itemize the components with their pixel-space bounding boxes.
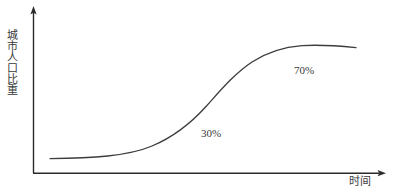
y-axis-label: 城市人口比重	[2, 29, 17, 95]
urbanization-curve-figure: 城市人口比重 时间 30% 70%	[0, 0, 394, 195]
x-axis-label: 时间	[349, 176, 371, 187]
urbanization-curve	[50, 45, 356, 158]
x-axis	[33, 170, 386, 176]
chart-canvas	[0, 0, 394, 195]
annotation-upper-threshold: 70%	[294, 65, 314, 76]
y-axis	[30, 6, 36, 173]
annotation-lower-threshold: 30%	[201, 128, 221, 139]
